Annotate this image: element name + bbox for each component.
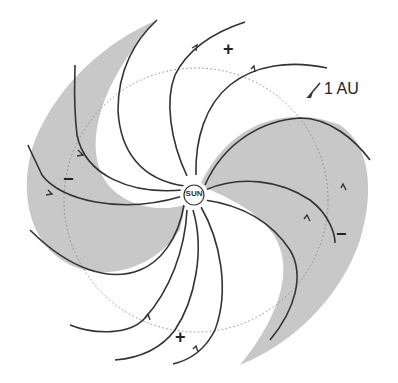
orbit-label: 1 AU <box>324 80 359 98</box>
sun-label: SUN <box>183 189 205 198</box>
polarity-plus-bottom: + <box>175 328 186 346</box>
polarity-minus-right: − <box>336 225 347 243</box>
polarity-minus-left: − <box>63 170 74 188</box>
negative-sector-left <box>27 20 185 272</box>
orbit-label-arrow <box>306 83 320 98</box>
polarity-plus-top: + <box>223 40 234 58</box>
